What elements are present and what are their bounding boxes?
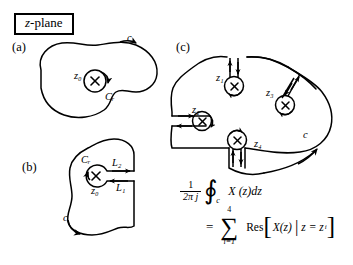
panel-a-inner-contour-label-cr: Cᵣ [105, 92, 115, 103]
panel-b-cut-label-l2: L₂ [112, 158, 122, 169]
bracket-open: [ [263, 217, 271, 236]
panel-b-pole-marker [92, 172, 100, 180]
panel-a-pole-marker [91, 77, 99, 85]
panel-c-pole-label-z1: z₁ [216, 73, 224, 84]
formula-line-1: 1 2π j ∮ c X (z)dz [180, 180, 262, 202]
sigma-lower-limit: i=1 [223, 239, 235, 246]
residue-argument: X(z) [272, 221, 293, 233]
sigma-glyph: ∑ [220, 213, 238, 240]
panel-a-contour [40, 42, 157, 117]
oint-subscript: c [216, 198, 220, 204]
panel-c-pole-label-z3: z₃ [266, 88, 274, 99]
residue-separator-bar: | [293, 219, 300, 234]
formula-equals: = [206, 219, 213, 235]
residue-theorem-formula: 1 2π j ∮ c X (z)dz = 4 ∑ i=1 Res [ X(z) … [176, 180, 353, 265]
panel-c-pole-z1 [225, 58, 244, 96]
contour-integral-symbol: ∮ c [204, 181, 218, 202]
z-plane-suffix: -plane [30, 15, 62, 30]
panel-c-pole-z3 [276, 74, 301, 115]
panel-b-cut-arrows [110, 171, 130, 181]
panel-b-cut-lines [107, 171, 134, 181]
panel-label-b: (b) [22, 160, 37, 175]
residue-expression: Res [ X(z) | z = zi ] [246, 217, 335, 236]
panel-a-pole-label-z0: z₀ [74, 71, 82, 82]
formula-denominator: 2π j [180, 191, 201, 203]
residue-condition: z = z [300, 221, 324, 233]
formula-line-2: = 4 ∑ i=1 Res [ X(z) | z = zi ] [206, 216, 335, 237]
panel-b-cut-label-l1: L₁ [116, 183, 126, 194]
panel-label-a: (a) [12, 40, 26, 55]
sigma-upper-limit: 4 [227, 207, 231, 214]
formula-integrand: X (z)dz [228, 184, 262, 199]
formula-fraction: 1 2π j [180, 180, 201, 202]
panel-c-pole-label-z4: z₄ [254, 139, 262, 150]
residue-word: Res [246, 221, 263, 233]
bracket-close: ] [327, 217, 335, 236]
panel-c-pole-z4 [228, 130, 247, 167]
panel-c-contour-label-c: c [303, 130, 308, 141]
panel-b-inner-contour-label-cr: Cᵣ [81, 155, 91, 166]
summation-symbol: 4 ∑ i=1 [220, 216, 238, 237]
panel-a-contour-label-c: c [127, 33, 132, 44]
panel-c-pole-label-z2: z₂ [192, 105, 200, 116]
panel-b-contour-label-c: c [63, 213, 68, 224]
panel-label-c: (c) [176, 40, 190, 55]
z-plane-title-box: z-plane [14, 13, 74, 35]
formula-numerator: 1 [180, 180, 201, 191]
panel-b-pole-label-z0: z₀ [91, 186, 99, 197]
